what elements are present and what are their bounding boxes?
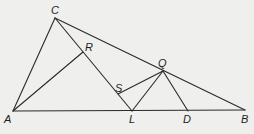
geometry-diagram: A B C L D Q R S	[0, 0, 254, 134]
label-S: S	[115, 82, 123, 94]
segment-LQ	[132, 71, 163, 111]
label-L: L	[129, 113, 135, 125]
segment-AB	[13, 110, 245, 111]
segment-CL	[55, 18, 132, 111]
label-B: B	[241, 113, 248, 125]
label-C: C	[51, 4, 59, 16]
vertex-labels: A B C L D Q R S	[3, 4, 248, 125]
label-R: R	[85, 41, 93, 53]
segment-AR	[13, 52, 83, 111]
triangle-figure: A B C L D Q R S	[0, 0, 254, 134]
segments	[13, 18, 245, 111]
segment-AC	[13, 18, 55, 111]
segment-CB	[55, 18, 245, 110]
label-A: A	[3, 113, 11, 125]
label-Q: Q	[158, 57, 167, 69]
segment-QD	[163, 71, 188, 111]
label-D: D	[183, 113, 191, 125]
segment-SQ	[118, 71, 163, 94]
